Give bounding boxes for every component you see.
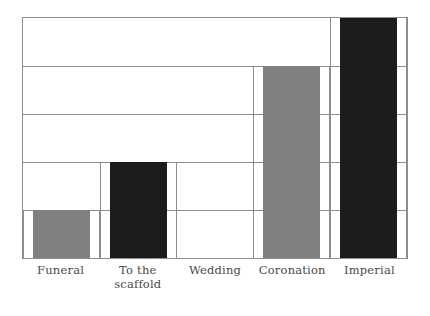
bar-slot-imperial: [330, 18, 407, 258]
bar-coronation[interactable]: [263, 66, 320, 258]
bar-slot-coronation: [253, 18, 330, 258]
bar-slot-to-the-scaffold: [100, 18, 177, 258]
x-label-line1: To the: [119, 263, 156, 277]
x-label-line2: scaffold: [99, 277, 176, 291]
x-label-line1: Wedding: [189, 263, 241, 277]
x-axis-labels: Funeral To the scaffold Wedding Coronati…: [22, 263, 408, 291]
plot-area: [22, 17, 408, 259]
bar-imperial[interactable]: [340, 18, 397, 258]
bar-to-the-scaffold[interactable]: [110, 162, 167, 258]
bar-series: [23, 18, 407, 258]
bar-slot-funeral: [23, 18, 100, 258]
bar-chart: Funeral To the scaffold Wedding Coronati…: [0, 0, 430, 316]
x-label-line1: Imperial: [344, 263, 395, 277]
x-label-line1: Funeral: [37, 263, 84, 277]
x-label-wedding: Wedding: [176, 263, 253, 291]
x-label-funeral: Funeral: [22, 263, 99, 291]
bar-funeral[interactable]: [33, 210, 90, 258]
bar-slot-wedding: [177, 18, 254, 258]
x-label-coronation: Coronation: [254, 263, 331, 291]
x-label-line1: Coronation: [259, 263, 326, 277]
x-label-to-the-scaffold: To the scaffold: [99, 263, 176, 291]
x-label-imperial: Imperial: [331, 263, 408, 291]
